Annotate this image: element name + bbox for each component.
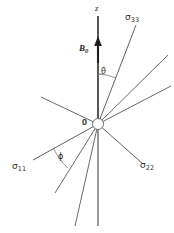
sigma-11-subscript: 11 [18, 165, 27, 173]
sigma-22-label: σ22 [140, 161, 154, 170]
figure-canvas [0, 0, 174, 233]
tensor-orientation-figure: z σ33 B0 θ 0 ϕ σ11 σ22 [0, 0, 174, 233]
sigma-22-axis-line [98, 124, 143, 164]
origin-node-circle [93, 119, 104, 130]
origin-label: 0 [82, 118, 87, 127]
aux-upper-right-line-2 [98, 86, 171, 124]
phi-angle-label: ϕ [58, 153, 63, 161]
sigma-22-symbol: σ [140, 160, 146, 170]
b0-field-label: B0 [79, 44, 88, 53]
z-axis-label: z [95, 4, 99, 13]
sigma-33-symbol: σ [125, 12, 131, 22]
b0-field-arrow [94, 36, 102, 63]
sigma-11-symbol: σ [12, 161, 18, 171]
sigma-11-label: σ11 [12, 162, 26, 171]
sigma-22-subscript: 22 [146, 164, 155, 172]
aux-lower-left-line-2 [75, 124, 98, 226]
aux-upper-right-line-1 [98, 55, 168, 124]
b0-subscript: 0 [85, 47, 88, 54]
sigma-11-axis-line [33, 124, 98, 160]
sigma-33-subscript: 33 [131, 16, 140, 24]
theta-angle-label: θ [101, 68, 106, 76]
aux-upper-left-line [41, 97, 98, 124]
sigma-33-label: σ33 [125, 13, 139, 22]
